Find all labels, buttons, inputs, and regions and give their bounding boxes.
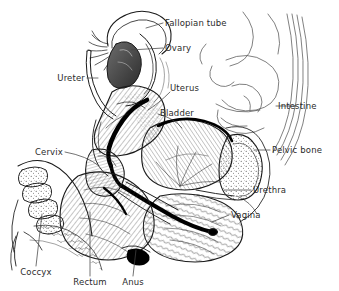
label-ureter: Ureter <box>57 74 85 83</box>
intestine-structure <box>200 12 280 134</box>
label-fallopian-tube: Fallopian tube <box>165 19 227 28</box>
label-pelvic-bone: Pelvic bone <box>272 146 322 155</box>
label-coccyx: Coccyx <box>20 268 51 277</box>
label-rectum: Rectum <box>73 278 106 287</box>
label-anus: Anus <box>122 278 144 287</box>
label-urethra: Urethra <box>253 186 286 195</box>
ovary-structure <box>107 42 141 89</box>
bladder-structure <box>142 119 233 190</box>
anatomy-figure: Fallopian tube Ovary Ureter Uterus Bladd… <box>0 0 339 291</box>
label-ovary: Ovary <box>165 44 191 53</box>
label-cervix: Cervix <box>35 148 63 157</box>
label-bladder: Bladder <box>160 109 194 118</box>
label-uterus: Uterus <box>170 84 199 93</box>
label-vagina: Vagina <box>231 211 261 220</box>
label-intestine: Intestine <box>278 102 317 111</box>
